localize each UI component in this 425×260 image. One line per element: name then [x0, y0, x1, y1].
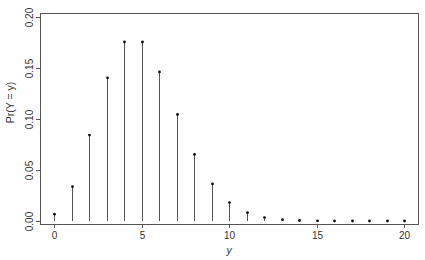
y-axis-title: Pr(Y = y) — [4, 82, 16, 124]
stem-point — [141, 41, 144, 44]
stem-point — [281, 218, 284, 221]
stem-point — [386, 220, 389, 223]
stem-point — [88, 134, 91, 137]
stem-point — [368, 220, 371, 223]
stem-point — [351, 220, 354, 223]
x-tick-label: 15 — [312, 230, 324, 241]
y-tick-label: 0.10 — [24, 109, 35, 129]
stem-point — [53, 213, 56, 216]
stem-point — [228, 201, 231, 204]
x-tick-label: 0 — [52, 230, 58, 241]
x-axis: 05101520 — [52, 224, 411, 241]
plot-frame — [41, 14, 419, 225]
x-tick-label: 20 — [399, 230, 411, 241]
y-tick-label: 0.05 — [24, 160, 35, 180]
y-tick-label: 0.15 — [24, 58, 35, 78]
stem-point — [316, 219, 319, 222]
stem-series — [53, 41, 406, 223]
stem-point — [176, 113, 179, 116]
stem-point — [211, 183, 214, 186]
x-tick-label: 10 — [224, 230, 236, 241]
y-tick-label: 0.00 — [24, 211, 35, 231]
stem-point — [298, 219, 301, 222]
stem-point — [246, 211, 249, 214]
poisson-pmf-chart: 0.000.050.100.150.20 05101520 Pr(Y = y) … — [0, 0, 425, 260]
stem-point — [123, 41, 126, 44]
x-tick-label: 5 — [140, 230, 146, 241]
stem-point — [71, 185, 74, 188]
stem-point — [403, 220, 406, 223]
stem-point — [158, 70, 161, 73]
stem-point — [263, 216, 266, 219]
y-axis: 0.000.050.100.150.20 — [24, 7, 40, 231]
stem-point — [333, 220, 336, 223]
stem-point — [106, 76, 109, 79]
x-axis-title: y — [225, 244, 232, 256]
stem-point — [193, 153, 196, 156]
y-tick-label: 0.20 — [24, 7, 35, 27]
